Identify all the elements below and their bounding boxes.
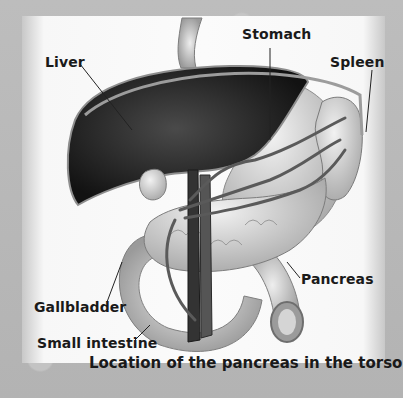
label-pancreas: Pancreas [301, 271, 374, 287]
label-spleen: Spleen [330, 54, 384, 70]
label-small-intestine: Small intestine [37, 335, 157, 351]
esophagus [178, 18, 202, 68]
label-stomach: Stomach [242, 26, 311, 42]
gallbladder [139, 169, 166, 200]
label-liver: Liver [45, 54, 85, 70]
label-gallbladder: Gallbladder [34, 299, 126, 315]
caption: Location of the pancreas in the torso [89, 354, 402, 372]
